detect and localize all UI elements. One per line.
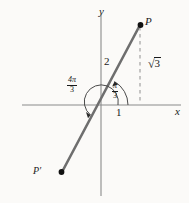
fraction-pi-over-3: π 3 (112, 82, 118, 100)
angle-label-pi-over-3: π 3 (112, 82, 118, 100)
fraction-denominator: 3 (112, 92, 118, 100)
radical-group: √3 (147, 58, 161, 70)
y-axis-label: y (99, 6, 104, 17)
point-P-label: P (145, 16, 152, 27)
fraction-4pi-over-3: 4π 3 (67, 76, 77, 94)
angle-label-4pi-over-3: 4π 3 (67, 76, 77, 94)
y-component-radical-label: √3 (147, 58, 161, 70)
x-axis-label: x (175, 106, 180, 117)
point-P-prime-label: P′ (33, 166, 41, 176)
polar-coordinates-figure: y x P P′ 2 1 √3 π 3 4π 3 (0, 0, 189, 203)
figure-canvas (0, 0, 189, 203)
x-component-label: 1 (116, 107, 122, 118)
radius-length-label: 2 (104, 56, 110, 67)
fraction-denominator: 3 (67, 86, 77, 94)
radicand: 3 (154, 57, 162, 69)
point-P-marker (138, 22, 144, 28)
point-P-prime-marker (59, 169, 65, 175)
